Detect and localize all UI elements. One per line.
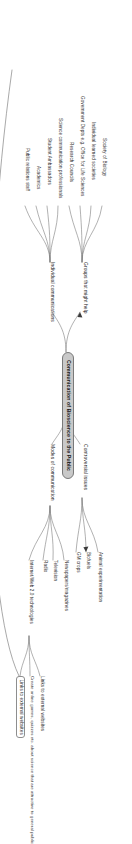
connector-groups-learned — [82, 206, 91, 262]
node-television-label: Television — [52, 560, 57, 581]
connector-modes-television — [50, 506, 53, 560]
node-academics[interactable]: Academics — [35, 166, 40, 189]
node-public-relations-staff[interactable]: Public relations staff — [24, 148, 29, 191]
connector-individual-pr — [25, 206, 50, 262]
node-society-of-biology[interactable]: Society of Biology — [101, 138, 106, 176]
node-gm-crops[interactable]: GM crops — [75, 552, 80, 573]
node-science-communication-professionals-label: Science communication professionals — [57, 118, 62, 198]
branch-controversial-issues[interactable]: Controversial issues — [82, 444, 87, 490]
branch-groups-that-might-help[interactable]: Groups that might help — [82, 262, 87, 314]
connector-crosslink-arc — [0, 70, 19, 676]
node-student-ambassadors-label: Student Ambassadors — [46, 138, 51, 185]
node-individual-learned-societies[interactable]: Individual learned societies — [90, 122, 95, 180]
branch-modes-of-communication-label: Modes of communication — [49, 444, 54, 501]
node-internet-web2[interactable]: Internet/Web 2.0 technologies — [28, 560, 33, 624]
connector-individual-scicomm — [50, 206, 58, 262]
node-research-councils-label: Research Councils — [68, 142, 73, 182]
connector-internet-links2 — [20, 636, 29, 676]
node-individual-learned-societies-label: Individual learned societies — [90, 122, 95, 180]
connector-modes-internet — [29, 506, 50, 560]
node-public-relations-staff-label: Public relations staff — [24, 148, 29, 191]
root-node[interactable]: Communication of Bioscience to the Publi… — [62, 352, 74, 479]
node-animal-experimentation-label: Animal experimentation — [97, 552, 102, 602]
node-science-communication-professionals[interactable]: Science communication professionals — [57, 118, 62, 198]
node-links-to-external-websites-2[interactable]: Links to external websites — [16, 676, 25, 738]
node-government-depts-label: Government Depts e.g. Office for Life Sc… — [79, 96, 84, 197]
node-television[interactable]: Television — [52, 560, 57, 581]
node-research-councils[interactable]: Research Councils — [68, 142, 73, 182]
node-biofuels-label: Biofuels — [85, 552, 90, 569]
connector-root-to-groups — [66, 312, 80, 352]
branch-individual-communications-label: Individual communications — [49, 262, 54, 322]
node-gm-crops-label: GM crops — [75, 552, 80, 573]
node-newspapers-magazines-label: Newspapers/magazines — [63, 560, 68, 611]
branch-controversial-issues-label: Controversial issues — [82, 444, 87, 490]
branch-modes-of-communication[interactable]: Modes of communication — [49, 444, 54, 501]
node-student-ambassadors[interactable]: Student Ambassadors — [46, 138, 51, 185]
node-create-online-games-label: Create online games, quizzes etc. about … — [30, 676, 34, 844]
node-links-to-external-websites-1-label: Links to external websites — [39, 676, 44, 731]
connector-controversial-gm — [76, 498, 82, 552]
node-links-to-external-websites-1[interactable]: Links to external websites — [39, 676, 44, 731]
node-radio[interactable]: Radio — [42, 560, 47, 573]
node-newspapers-magazines[interactable]: Newspapers/magazines — [63, 560, 68, 611]
branch-individual-communications[interactable]: Individual communications — [49, 262, 54, 322]
node-links-to-external-websites-2-label: Links to external websites — [18, 680, 23, 735]
branch-groups-that-might-help-label: Groups that might help — [82, 262, 87, 314]
node-government-depts[interactable]: Government Depts e.g. Office for Life Sc… — [79, 96, 84, 197]
root-node-label: Communication of Bioscience to the Publi… — [66, 360, 71, 471]
node-society-of-biology-label: Society of Biology — [101, 138, 106, 176]
connector-internet-links1 — [29, 636, 40, 676]
node-radio-label: Radio — [42, 560, 47, 573]
connector-controversial-animal — [82, 498, 98, 552]
node-internet-web2-label: Internet/Web 2.0 technologies — [28, 560, 33, 624]
node-academics-label: Academics — [35, 166, 40, 189]
connector-modes-radio — [43, 506, 50, 560]
node-animal-experimentation[interactable]: Animal experimentation — [97, 552, 102, 602]
node-create-online-games[interactable]: Create online games, quizzes etc. about … — [30, 676, 34, 844]
node-biofuels[interactable]: Biofuels — [85, 552, 90, 569]
connector-groups-councils — [69, 206, 82, 262]
connector-groups-society — [82, 206, 102, 262]
